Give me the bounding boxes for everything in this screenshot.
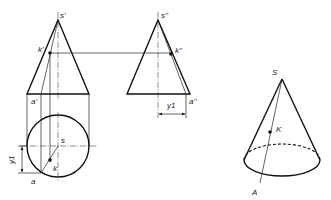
pictorial-base-hidden [244,144,320,160]
side-generatrix-sa [158,20,186,94]
label-a-prime: a' [31,97,37,106]
label-S: S [272,68,278,77]
label-y1-side: y1 [166,101,175,110]
point-k-double-prime [169,52,173,56]
label-k-double-prime: k'' [175,46,183,55]
side-cone-outline [127,20,190,94]
label-s-prime: s' [60,11,66,20]
label-a-double-prime: a'' [189,97,197,106]
pictorial-right-edge [282,79,320,160]
label-k-prime: k' [38,45,44,54]
label-s: s [61,136,65,145]
label-y1-top: y1 [7,156,16,165]
front-view: s' k' a' [27,11,172,162]
front-generatrix-sa [41,20,58,94]
pictorial-base-visible [244,160,320,176]
label-A: A [251,188,257,197]
label-s-double-prime: s'' [161,11,169,20]
point-k [48,158,52,162]
pictorial-view: S K A [244,68,320,197]
side-view: s'' k'' a'' y1 [127,11,197,118]
top-view: s k a y1 [7,112,98,186]
label-K: K [276,125,282,134]
point-K [268,130,272,134]
label-k: k [53,164,58,173]
cone-projection-diagram: s' k' a' s k a y1 s'' k'' a'' [0,0,331,200]
point-k-prime [48,51,52,55]
label-a: a [31,177,36,186]
pictorial-left-edge [244,79,282,160]
